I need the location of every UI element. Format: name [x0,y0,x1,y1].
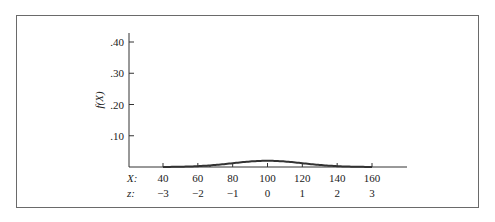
normal-distribution-chart: .10.20.30.40 40−360−280−1100012011402160… [0,0,495,222]
y-ticks: .10.20.30.40 [110,36,134,142]
x-tick-label: 160 [364,172,381,184]
y-tick-label: .30 [110,67,124,79]
y-tick-label: .40 [110,36,124,48]
z-tick-label: 2 [334,187,340,199]
x-tick-label: 60 [192,172,204,184]
x-tick-label: 100 [259,172,276,184]
y-axis-label: f(X) [93,91,106,108]
z-tick-label: 3 [369,187,375,199]
y-tick-label: .20 [110,99,124,111]
x-tick-label: 140 [329,172,346,184]
x-tick-label: 40 [158,172,170,184]
z-tick-label: −3 [157,187,169,199]
z-tick-label: −2 [192,187,204,199]
x-tick-label: 80 [227,172,239,184]
z-tick-label: −1 [227,187,239,199]
x-ticks: 40−360−280−11000120114021603 [157,163,381,199]
y-tick-label: .10 [110,130,124,142]
z-tick-label: 1 [300,187,306,199]
x-tick-label: 120 [294,172,311,184]
z-axis-label: z: [126,187,135,199]
x-axis-label: X: [126,172,137,184]
z-tick-label: 0 [265,187,271,199]
